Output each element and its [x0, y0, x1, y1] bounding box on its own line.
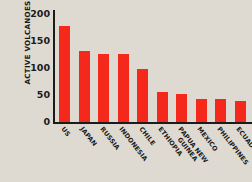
x-tick-slot: ETHIOPIA [153, 124, 173, 182]
plot-area [53, 14, 250, 122]
bar-slot [211, 14, 231, 122]
bar-slot [231, 14, 251, 122]
y-tick-label: 200 [20, 9, 50, 19]
bar [157, 92, 168, 122]
x-tick-slot: PHILIPPINES [211, 124, 231, 182]
x-tick-slot: ECUADOR [231, 124, 251, 182]
x-tick-slot: PAPUA NEW GUINEA [172, 124, 192, 182]
bar [176, 94, 187, 122]
x-tick-slot: CHILE [133, 124, 153, 182]
x-axis-tick-labels: USJAPANRUSSIAINDONESIACHILEETHIOPIAPAPUA… [55, 124, 250, 182]
bar [118, 54, 129, 122]
bar [79, 51, 90, 122]
bar-slot [114, 14, 134, 122]
y-axis-tick-labels: 200 150 100 50 0 [20, 0, 50, 182]
y-tick-label: 100 [20, 63, 50, 73]
bar [98, 54, 109, 122]
x-tick-slot: JAPAN [75, 124, 95, 182]
x-tick-slot: US [55, 124, 75, 182]
x-tick-slot: INDONESIA [114, 124, 134, 182]
x-tick-slot: MEXICO [192, 124, 212, 182]
bar-chart: ACTIVE VOLCANOES 200 150 100 50 0 USJAPA… [0, 0, 252, 182]
x-tick-label: ECUADOR [234, 126, 252, 158]
bar-slot [172, 14, 192, 122]
bar [137, 69, 148, 122]
x-tick-slot: RUSSIA [94, 124, 114, 182]
bar [196, 99, 207, 122]
bar [235, 101, 246, 122]
bar-slot [55, 14, 75, 122]
bar-slot [133, 14, 153, 122]
bar-slot [94, 14, 114, 122]
x-tick-label: US [59, 126, 71, 138]
bar [215, 99, 226, 122]
bar-slot [192, 14, 212, 122]
bar-slot [153, 14, 173, 122]
bar-slot [75, 14, 95, 122]
bar-series [55, 14, 250, 122]
y-tick-label: 150 [20, 36, 50, 46]
y-tick-label: 0 [20, 117, 50, 127]
y-tick-label: 50 [20, 90, 50, 100]
bar [59, 26, 70, 122]
